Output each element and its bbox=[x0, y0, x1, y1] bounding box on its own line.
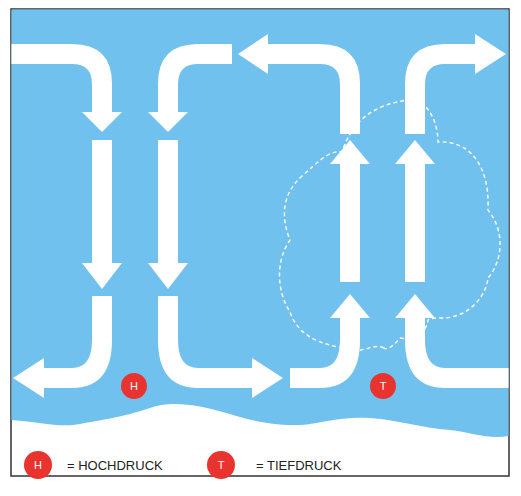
svg-text:T: T bbox=[218, 459, 225, 471]
circulation-diagram: H T H = HOCHDRUCK T = TIEFDRUCK bbox=[0, 0, 521, 496]
low-pressure-marker: T bbox=[370, 373, 396, 399]
high-pressure-marker: H bbox=[121, 373, 147, 399]
legend-low-label: = TIEFDRUCK bbox=[256, 458, 342, 473]
svg-text:H: H bbox=[130, 380, 138, 392]
legend-high-label: = HOCHDRUCK bbox=[67, 458, 163, 473]
svg-text:H: H bbox=[34, 459, 42, 471]
svg-text:T: T bbox=[380, 380, 387, 392]
